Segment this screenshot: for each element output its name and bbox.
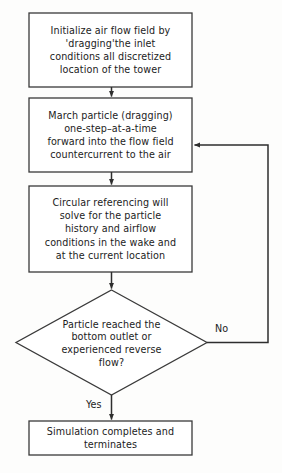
node-dec1-shape bbox=[16, 290, 207, 395]
edge-dec1-to-proc2-no bbox=[195, 145, 269, 343]
edge-label-yes: Yes bbox=[86, 399, 102, 411]
node-proc3-shape bbox=[29, 186, 192, 272]
node-proc4-shape bbox=[29, 421, 192, 455]
node-proc1-shape bbox=[29, 13, 192, 87]
edge-label-no: No bbox=[215, 323, 228, 335]
node-proc2-shape bbox=[29, 98, 192, 172]
flowchart-graphics bbox=[0, 0, 282, 473]
flowchart-canvas: Initialize air flow field by 'dragging't… bbox=[0, 0, 282, 473]
